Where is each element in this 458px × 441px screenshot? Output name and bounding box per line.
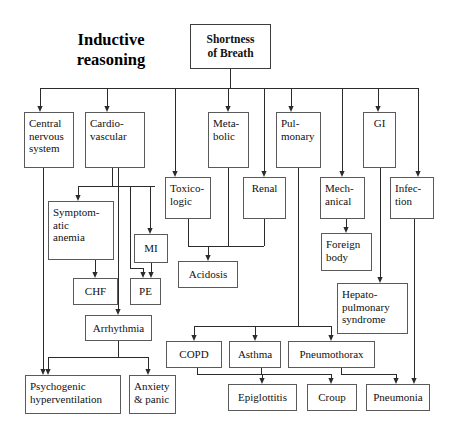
node-label: Renal (246, 182, 283, 195)
node-label: Asthma (232, 348, 278, 361)
node-cardiovascular[interactable]: Cardio-vascular (85, 112, 145, 168)
node-pulmonary[interactable]: Pul-monary (276, 112, 321, 168)
node-symptomatic-anemia[interactable]: Symptom-aticanemia (48, 201, 114, 260)
node-metabolic[interactable]: Meta-bolic (208, 112, 249, 168)
node-foreign-body[interactable]: Foreignbody (321, 233, 372, 271)
edge-copd-epiglottitis (197, 368, 262, 381)
edge-asthma-croup (261, 368, 331, 381)
node-label: Pul-monary (281, 117, 318, 142)
node-label: CHF (76, 285, 115, 298)
node-pe[interactable]: PE (130, 278, 161, 305)
node-label: Centralnervoussystem (29, 117, 71, 155)
node-label: Toxico-logic (170, 182, 208, 207)
node-label: COPD (169, 348, 219, 361)
node-chf[interactable]: CHF (73, 278, 118, 305)
node-hepatopulmonary-syndrome[interactable]: Hepato-pulmonarysyndrome (337, 283, 408, 334)
node-label: GI (366, 117, 393, 130)
node-label: Pneumothorax (291, 348, 372, 361)
node-label: Hepato-pulmonarysyndrome (342, 288, 405, 326)
node-mi[interactable]: MI (134, 234, 168, 263)
node-mechanical[interactable]: Mech-anical (320, 177, 365, 219)
node-label: Mech-anical (325, 182, 362, 207)
node-psychogenic-hyperventilation[interactable]: Psychogenichyperventilation (25, 375, 121, 414)
node-label: Meta-bolic (213, 117, 246, 142)
node-label: PE (133, 285, 158, 298)
node-label: Acidosis (181, 268, 235, 281)
node-label: Pneumonia (369, 391, 427, 404)
node-central-nervous-system[interactable]: Centralnervoussystem (24, 112, 74, 168)
node-label: Cardio-vascular (90, 117, 142, 142)
edge-pneumothorax-pneumonia (341, 368, 396, 381)
diagram-title: Inductive reasoning (46, 30, 176, 70)
node-infection[interactable]: Infec-tion (390, 177, 434, 219)
node-label: Foreignbody (326, 238, 369, 263)
node-copd[interactable]: COPD (166, 341, 222, 368)
node-shortness-of-breath[interactable]: Shortnessof Breath (190, 24, 271, 69)
node-anxiety-panic[interactable]: Anxiety& panic (129, 375, 176, 414)
node-epiglottitis[interactable]: Epiglottitis (228, 384, 297, 411)
node-label: Symptom-aticanemia (53, 206, 111, 244)
node-croup[interactable]: Croup (307, 384, 357, 411)
node-label: Infec-tion (395, 182, 431, 207)
node-label: Shortnessof Breath (193, 33, 268, 59)
node-pneumonia[interactable]: Pneumonia (366, 384, 430, 411)
node-asthma[interactable]: Asthma (229, 341, 281, 368)
node-acidosis[interactable]: Acidosis (178, 261, 238, 288)
node-gi[interactable]: GI (363, 112, 396, 168)
node-renal[interactable]: Renal (243, 177, 286, 219)
node-label: Croup (310, 391, 354, 404)
node-toxicologic[interactable]: Toxico-logic (165, 177, 211, 219)
node-label: Arrhythmia (88, 322, 149, 335)
node-label: Epiglottitis (231, 391, 294, 404)
node-label: MI (137, 242, 165, 255)
node-pneumothorax[interactable]: Pneumothorax (288, 341, 375, 368)
diagram-title-line-2: reasoning (46, 50, 176, 70)
node-label: Anxiety& panic (134, 380, 173, 405)
node-arrhythmia[interactable]: Arrhythmia (85, 315, 152, 341)
node-label: Psychogenichyperventilation (30, 380, 118, 405)
diagram-title-line-1: Inductive (46, 30, 176, 50)
flowchart-canvas: Inductive reasoning Shortnessof Breath C… (0, 0, 458, 441)
